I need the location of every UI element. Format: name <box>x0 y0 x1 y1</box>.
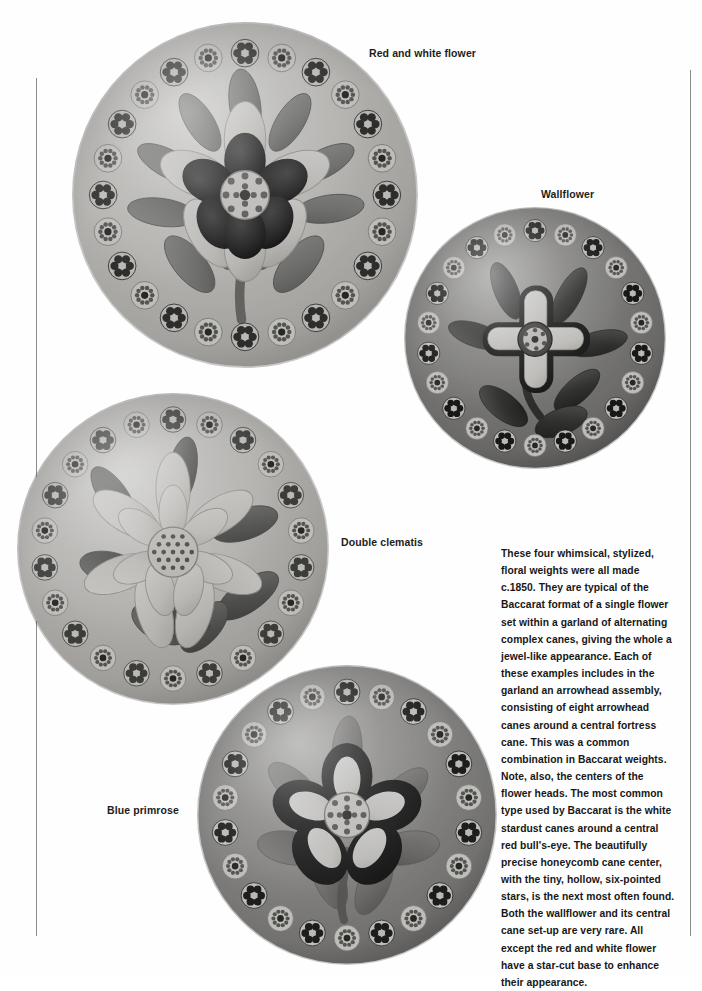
paperweight-wallflower <box>404 207 666 469</box>
descriptive-text-block: These four whimsical, stylized, floral w… <box>501 545 677 991</box>
paperweight-blue-primrose <box>197 665 497 965</box>
right-margin-rule <box>690 70 691 936</box>
paperweight-red-and-white-flower <box>72 22 418 368</box>
paperweight-double-clematis <box>17 393 329 705</box>
caption-red-and-white-flower: Red and white flower <box>369 47 476 59</box>
caption-double-clematis: Double clematis <box>341 536 423 548</box>
caption-wallflower: Wallflower <box>541 188 594 200</box>
caption-blue-primrose: Blue primrose <box>107 804 179 816</box>
